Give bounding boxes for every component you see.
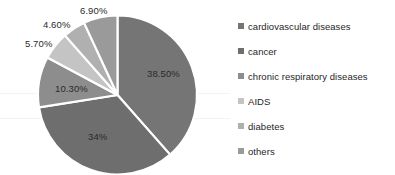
pie-chart-figure: 38.50% 34% 10.30% 5.70% 4.60% 6.90% card… <box>0 0 395 174</box>
legend-swatch-icon <box>238 148 244 154</box>
legend-swatch-icon <box>238 98 244 104</box>
slice-label-cardiovascular: 38.50% <box>147 68 180 79</box>
legend-swatch-icon <box>238 48 244 54</box>
pie-plot-area: 38.50% 34% 10.30% 5.70% 4.60% 6.90% <box>0 0 232 174</box>
legend-item-respiratory[interactable]: chronic respiratory diseases <box>238 70 368 82</box>
legend-label: AIDS <box>248 96 270 107</box>
legend-item-others[interactable]: others <box>238 145 275 157</box>
legend-swatch-icon <box>238 73 244 79</box>
slice-label-cancer: 34% <box>88 131 107 142</box>
slice-label-respiratory: 10.30% <box>55 83 88 94</box>
slice-label-diabetes: 4.60% <box>43 19 70 30</box>
legend-label: others <box>248 146 275 157</box>
legend-label: cardiovascular diseases <box>248 21 351 32</box>
legend-label: diabetes <box>248 121 284 132</box>
legend-label: cancer <box>248 46 277 57</box>
legend-item-cancer[interactable]: cancer <box>238 45 277 57</box>
chart-legend: cardiovascular diseases cancer chronic r… <box>238 0 395 174</box>
pie-slice-group <box>38 16 197 175</box>
legend-item-cardiovascular[interactable]: cardiovascular diseases <box>238 20 351 32</box>
slice-label-aids: 5.70% <box>25 38 52 49</box>
legend-item-diabetes[interactable]: diabetes <box>238 120 284 132</box>
pie-svg <box>0 0 232 174</box>
legend-swatch-icon <box>238 23 244 29</box>
legend-label: chronic respiratory diseases <box>248 71 368 82</box>
legend-swatch-icon <box>238 123 244 129</box>
slice-label-others: 6.90% <box>80 5 107 16</box>
legend-item-aids[interactable]: AIDS <box>238 95 270 107</box>
